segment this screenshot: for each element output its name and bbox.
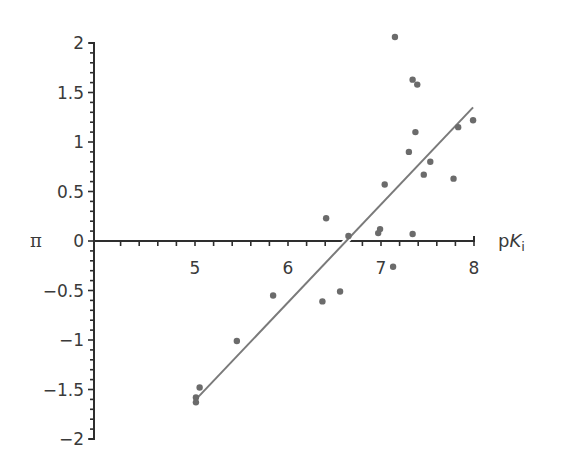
data-point — [414, 81, 420, 87]
y-tick-label: −1 — [59, 330, 84, 350]
x-tick-label: 7 — [376, 258, 387, 278]
data-point — [406, 149, 412, 155]
data-point — [196, 384, 202, 390]
data-point — [270, 292, 276, 298]
data-point — [421, 171, 427, 177]
y-tick-label: 0.5 — [57, 182, 84, 202]
data-point — [234, 338, 240, 344]
data-point — [412, 129, 418, 135]
y-tick-label: −2 — [59, 429, 84, 449]
x-axis-title-prefix: p — [498, 230, 509, 251]
y-axis-title: π — [30, 230, 42, 251]
data-point — [323, 215, 329, 221]
data-point — [375, 230, 381, 236]
data-point — [390, 264, 396, 270]
data-point — [470, 117, 476, 123]
x-axis: 5678 — [94, 236, 479, 278]
data-point — [450, 175, 456, 181]
y-tick-label: −0.5 — [43, 281, 84, 301]
y-tick-label: −1.5 — [43, 380, 84, 400]
y-tick-label: 1.5 — [57, 83, 84, 103]
data-point — [345, 233, 351, 239]
data-point — [382, 181, 388, 187]
data-point — [409, 231, 415, 237]
regression-line-stroke — [195, 107, 473, 400]
x-tick-label: 5 — [190, 258, 201, 278]
y-tick-label: 1 — [73, 132, 84, 152]
y-tick-label: 0 — [73, 231, 84, 251]
data-point — [392, 34, 398, 40]
data-point — [427, 159, 433, 165]
scatter-chart: 21.510.50−0.5−1−1.5−2 5678 π pKi — [0, 0, 561, 469]
data-point — [193, 399, 199, 405]
data-points — [193, 34, 477, 406]
y-axis: 21.510.50−0.5−1−1.5−2 — [43, 33, 95, 449]
y-tick-label: 2 — [73, 33, 84, 53]
x-axis-title-subscript: i — [521, 239, 525, 254]
x-tick-label: 6 — [283, 258, 294, 278]
data-point — [455, 124, 461, 130]
data-point — [409, 76, 415, 82]
data-point — [337, 288, 343, 294]
regression-line — [195, 107, 473, 400]
data-point — [319, 298, 325, 304]
x-axis-title: pKi — [498, 230, 525, 254]
x-tick-label: 8 — [469, 258, 480, 278]
